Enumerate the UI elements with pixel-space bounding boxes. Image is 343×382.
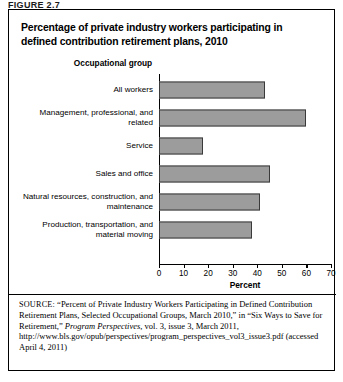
x-axis-tick xyxy=(208,264,209,268)
bar xyxy=(159,194,260,211)
bar xyxy=(159,82,265,99)
bar-row: Service xyxy=(9,132,336,160)
x-axis-title: Percent xyxy=(159,280,331,290)
source-divider xyxy=(9,294,336,295)
figure-label: FIGURE 2.7 xyxy=(8,0,60,9)
bar xyxy=(159,110,306,127)
bar-category-label: All workers xyxy=(13,85,153,95)
x-axis-tick xyxy=(282,264,283,268)
x-axis-tick-label: 20 xyxy=(204,269,213,278)
bar-category-label: Production, transportation, and material… xyxy=(13,220,153,239)
x-axis-tick-label: 40 xyxy=(253,269,262,278)
bar-track xyxy=(159,188,331,216)
source-publication-title: Program Perspectives xyxy=(65,321,140,331)
occupational-group-header: Occupational group xyxy=(69,58,157,68)
x-axis-tick-label: 60 xyxy=(302,269,311,278)
x-axis-tick xyxy=(233,264,234,268)
bar-category-label: Management, professional, and related xyxy=(13,108,153,127)
bar-track xyxy=(159,160,331,188)
bar-track xyxy=(159,132,331,160)
x-axis-tick xyxy=(331,264,332,268)
x-axis-tick-label: 10 xyxy=(179,269,188,278)
bar-category-label: Service xyxy=(13,141,153,151)
chart-title: Percentage of private industry workers p… xyxy=(21,21,317,48)
source-note: SOURCE: “Percent of Private Industry Wor… xyxy=(19,299,325,352)
bar xyxy=(159,138,203,155)
bar-row: Production, transportation, and material… xyxy=(9,216,336,244)
x-axis-line xyxy=(159,264,331,265)
bar xyxy=(159,166,270,183)
x-axis-tick-label: 0 xyxy=(157,269,162,278)
x-axis-tick xyxy=(257,264,258,268)
chart-plot-area: Occupational group All workersManagement… xyxy=(9,58,336,290)
bar-track xyxy=(159,104,331,132)
bar-row: Natural resources, construction, and mai… xyxy=(9,188,336,216)
x-axis-tick xyxy=(184,264,185,268)
bar xyxy=(159,222,252,239)
bar-track xyxy=(159,76,331,104)
source-prefix: SOURCE: xyxy=(19,300,55,309)
x-axis-tick-label: 50 xyxy=(277,269,286,278)
bar-track xyxy=(159,216,331,244)
x-axis-tick xyxy=(159,264,160,268)
bar-row: All workers xyxy=(9,76,336,104)
x-axis-tick-label: 70 xyxy=(326,269,335,278)
x-axis-tick-label: 30 xyxy=(228,269,237,278)
bar-category-label: Natural resources, construction, and mai… xyxy=(13,192,153,211)
x-axis-tick xyxy=(306,264,307,268)
bar-row: Management, professional, and related xyxy=(9,104,336,132)
bar-row: Sales and office xyxy=(9,160,336,188)
bar-category-label: Sales and office xyxy=(13,169,153,179)
figure-container: Percentage of private industry workers p… xyxy=(8,9,335,371)
